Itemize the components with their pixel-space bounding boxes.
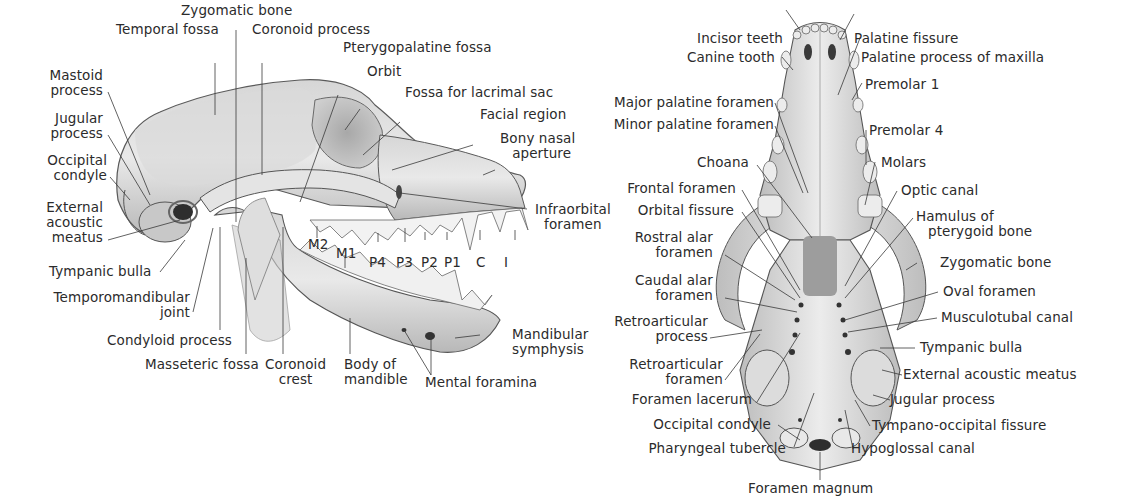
tooth-label-p2: P2 [421, 255, 438, 270]
label-retroarticular-process: Retroarticular process [614, 314, 708, 344]
label-palatine-fissure: Palatine fissure [854, 31, 958, 46]
label-major-palatine-foramen: Major palatine foramen [614, 95, 774, 110]
label-retroarticular-foramen: Retroarticular foramen [629, 357, 723, 387]
label-tympano-occipital-fissure: Tympano-occipital fissure [872, 418, 1046, 433]
tooth-label-p1: P1 [444, 255, 461, 270]
label-coronoid-process: Coronoid process [252, 22, 370, 37]
choana-shape [803, 236, 837, 296]
infraorbital-foramen-shape [396, 185, 402, 199]
label-zygomatic-bone: Zygomatic bone [181, 3, 292, 18]
label-tympanic-bulla: Tympanic bulla [49, 264, 151, 279]
label-oval-foramen: Oval foramen [943, 284, 1036, 299]
label-hypoglossal-canal: Hypoglossal canal [851, 441, 975, 456]
label-coronoid-crest: Coronoid crest [265, 357, 326, 387]
label-choana: Choana [697, 155, 749, 170]
label-temporomandibular-joint: Temporomandibular joint [54, 290, 190, 320]
label-temporal-fossa: Temporal fossa [116, 22, 219, 37]
label-canine-tooth: Canine tooth [687, 50, 775, 65]
label-external-acoustic-meatus-ventral: External acoustic meatus [903, 367, 1077, 382]
label-mental-foramina: Mental foramina [425, 375, 537, 390]
label-occipital-condyle: Occipital condyle [47, 153, 107, 183]
label-foramen-lacerum: Foramen lacerum [632, 392, 752, 407]
label-pterygopalatine-fossa: Pterygopalatine fossa [343, 40, 492, 55]
label-body-of-mandible: Body of mandible [344, 357, 408, 387]
tooth-label-p3: P3 [396, 255, 413, 270]
label-infraorbital-foramen: Infraorbital foramen [535, 202, 611, 232]
label-external-acoustic-meatus: External acoustic meatus [46, 200, 103, 245]
tooth-label-i: I [504, 255, 508, 270]
label-musculotubal-canal: Musculotubal canal [941, 310, 1073, 325]
label-foramen-magnum: Foramen magnum [748, 481, 873, 496]
label-hamulus-pterygoid: Hamulus of pterygoid bone [916, 209, 1032, 239]
label-incisor-teeth: Incisor teeth [697, 31, 783, 46]
label-fossa-lacrimal-sac: Fossa for lacrimal sac [405, 85, 553, 100]
foramen-magnum-shape [809, 439, 831, 451]
tooth-label-p4: P4 [369, 255, 386, 270]
label-jugular-process-ventral: Jugular process [890, 392, 995, 407]
label-caudal-alar-foramen: Caudal alar foramen [635, 273, 713, 303]
label-palatine-process-maxilla: Palatine process of maxilla [861, 50, 1044, 65]
tooth-label-c: C [476, 255, 486, 270]
ear-canal [173, 204, 193, 220]
label-jugular-process: Jugular process [50, 111, 103, 141]
label-molars: Molars [881, 155, 926, 170]
label-premolar-1: Premolar 1 [865, 77, 939, 92]
tooth-label-m2: M2 [308, 237, 328, 252]
label-orbital-fissure: Orbital fissure [638, 203, 734, 218]
label-tympanic-bulla-ventral: Tympanic bulla [920, 340, 1022, 355]
label-orbit: Orbit [367, 64, 401, 79]
label-frontal-foramen: Frontal foramen [627, 181, 736, 196]
label-rostral-alar-foramen: Rostral alar foramen [635, 230, 713, 260]
label-mastoid-process: Mastoid process [49, 68, 103, 98]
label-zygomatic-bone-ventral: Zygomatic bone [940, 255, 1051, 270]
tooth-label-m1: M1 [336, 246, 356, 261]
label-masseteric-fossa: Masseteric fossa [145, 357, 259, 372]
label-bony-nasal-aperture: Bony nasal aperture [500, 131, 575, 161]
label-occipital-condyle-ventral: Occipital condyle [653, 417, 771, 432]
label-optic-canal: Optic canal [901, 183, 978, 198]
label-condyloid-process: Condyloid process [107, 333, 232, 348]
label-facial-region: Facial region [480, 107, 566, 122]
label-mandibular-symphysis: Mandibular symphysis [512, 327, 589, 357]
skull-diagram: Zygomatic bone Temporal fossa Coronoid p… [0, 0, 1123, 503]
label-minor-palatine-foramen: Minor palatine foramen [614, 117, 774, 132]
label-pharyngeal-tubercle: Pharyngeal tubercle [648, 441, 786, 456]
label-premolar-4: Premolar 4 [869, 123, 943, 138]
